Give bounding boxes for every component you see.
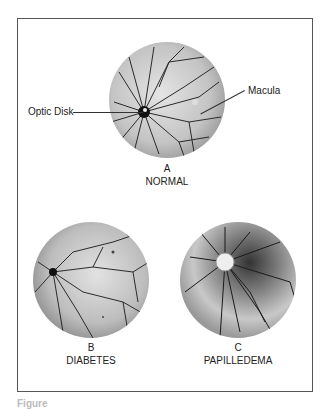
panel-a-title: NORMAL (127, 176, 207, 188)
panel-c-title: PAPILLEDEMA (193, 355, 283, 367)
panel-c-letter: C (218, 342, 258, 354)
optic-disk-leader-line (73, 112, 143, 113)
panel-a-letter: A (147, 163, 187, 175)
macula-label: Macula (248, 85, 280, 97)
panel-b-title: DIABETES (51, 355, 131, 367)
fundus-normal-image (109, 42, 225, 158)
panel-b-letter: B (71, 342, 111, 354)
fundus-papilledema-image (180, 222, 296, 338)
figure-caption: Figure (17, 398, 48, 409)
fundus-diabetes-image (33, 222, 149, 338)
optic-disk-label: Optic Disk (28, 106, 74, 118)
